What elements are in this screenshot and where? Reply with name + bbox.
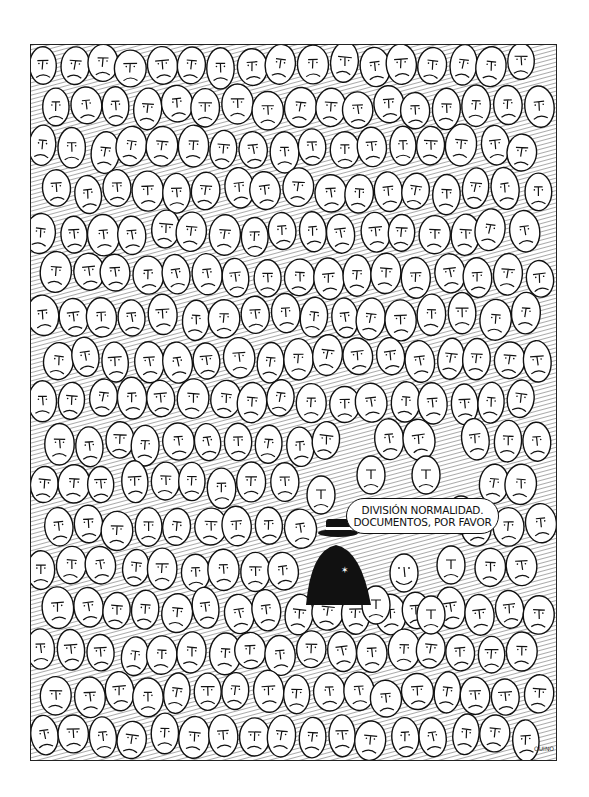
cartoon-panel: ✶ DIVISIÓN NORMALIDAD. DOCUMENTOS, POR F… [30, 44, 557, 761]
speech-line-2: DOCUMENTOS, POR FAVOR [353, 516, 491, 529]
artist-signature: QUINO [534, 745, 554, 752]
svg-text:✶: ✶ [341, 565, 349, 575]
smiling-person [390, 554, 418, 592]
speech-line-1: DIVISIÓN NORMALIDAD. [362, 504, 484, 517]
crowd-of-frowning-faces: ✶ [31, 45, 557, 761]
speech-bubble: DIVISIÓN NORMALIDAD. DOCUMENTOS, POR FAV… [346, 498, 499, 534]
